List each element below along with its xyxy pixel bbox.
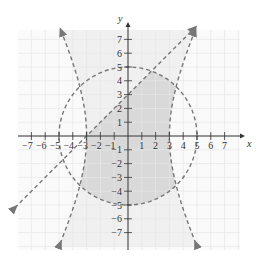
x-tick-label: −4 xyxy=(63,140,74,151)
x-tick-label: 3 xyxy=(167,140,172,151)
y-tick-label: 4 xyxy=(117,75,122,86)
x-axis-label: x xyxy=(246,138,252,149)
x-axis-arrow-icon xyxy=(240,134,245,139)
x-tick-label: −7 xyxy=(22,140,33,151)
x-tick-label: −2 xyxy=(91,140,102,151)
y-tick-label: −2 xyxy=(111,158,122,169)
y-tick-label: −6 xyxy=(111,213,122,224)
x-tick-label: −6 xyxy=(36,140,47,151)
x-tick-label: 6 xyxy=(208,140,213,151)
x-tick-label: −5 xyxy=(50,140,61,151)
y-tick-label: −3 xyxy=(111,172,122,183)
y-tick-label: 7 xyxy=(117,34,122,45)
x-tick-label: 7 xyxy=(222,140,227,151)
y-axis-arrow-icon xyxy=(126,22,131,27)
y-tick-label: −1 xyxy=(111,144,122,155)
y-tick-label: 6 xyxy=(117,48,122,59)
y-tick-label: 1 xyxy=(117,117,122,128)
x-tick-label: 5 xyxy=(195,140,200,151)
x-tick-label: 4 xyxy=(181,140,186,151)
graph: −7−6−5−4−3−2−11234567−7−6−5−4−3−2−112345… xyxy=(0,0,267,257)
y-tick-label: 3 xyxy=(117,89,122,100)
y-tick-label: −4 xyxy=(111,186,122,197)
x-tick-label: 2 xyxy=(153,140,158,151)
y-axis-label: y xyxy=(117,13,123,24)
y-tick-label: 5 xyxy=(117,62,122,73)
x-tick-label: −3 xyxy=(77,140,88,151)
x-tick-label: 1 xyxy=(139,140,144,151)
y-tick-label: −5 xyxy=(111,200,122,211)
y-tick-label: −7 xyxy=(111,227,122,238)
y-tick-label: 2 xyxy=(117,103,122,114)
